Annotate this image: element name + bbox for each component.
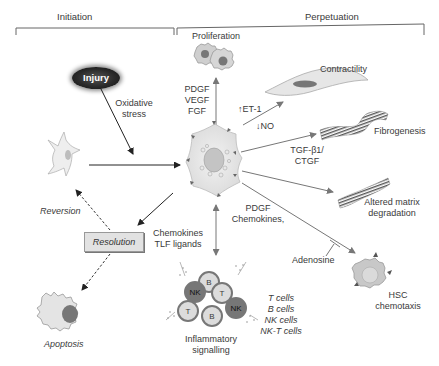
- resolution-box: Resolution: [84, 232, 144, 252]
- no-label: ↓NO: [256, 121, 274, 132]
- reversion-label: Reversion: [40, 206, 81, 217]
- arrow-to-altered-matrix: [242, 171, 333, 192]
- adenosine-label: Adenosine: [292, 255, 335, 266]
- cluster-cell-t-right: T: [216, 288, 228, 299]
- tgf-ctgf-label: TGF-β1/ CTGF: [287, 145, 327, 167]
- cluster-cell-b-bottom: B: [206, 311, 218, 322]
- arrow-hsc-to-resolution: [138, 193, 173, 225]
- cluster-cell-t-bottom: T: [182, 306, 194, 317]
- cluster-cell-b-top: B: [203, 277, 215, 288]
- apoptosis-label: Apoptosis: [44, 339, 84, 350]
- fibrogenesis-label: Fibrogenesis: [374, 126, 426, 137]
- apoptosis-cell-icon: [37, 292, 78, 331]
- chemokines-tlf-label: Chemokines TLF ligands: [150, 228, 206, 250]
- inflammatory-signalling-label: Inflammatory signalling: [181, 334, 241, 356]
- contractility-label: Contractility: [320, 64, 367, 75]
- injury-node: Injury: [72, 67, 120, 89]
- perpetuation-label: Perpetuation: [305, 11, 359, 22]
- altered-matrix-label: Altered matrix degradation: [357, 197, 427, 219]
- activated-hsc-cell-icon: [186, 121, 242, 197]
- initiation-bracket: [16, 28, 174, 35]
- proliferation-cells-icon: [194, 43, 234, 70]
- cluster-cell-nk-left: NK: [187, 287, 203, 298]
- initiation-label: Initiation: [57, 11, 92, 22]
- proliferation-label: Proliferation: [192, 31, 240, 42]
- hsc-chemotaxis-label: HSC chemotaxis: [370, 290, 426, 312]
- cluster-cell-nk-right: NK: [228, 303, 244, 314]
- pdgf-chemokines-label: PDGF Chemokines,: [228, 203, 288, 225]
- immune-cells-list: T cells B cells NK cells NK-T cells: [256, 293, 306, 337]
- arrow-resolution-to-reversion: [76, 190, 110, 230]
- oxidative-stress-label: Oxidative stress: [112, 98, 156, 120]
- arrow-resolution-to-apoptosis: [82, 254, 110, 290]
- hsc-chemotaxis-cell-icon: [352, 252, 392, 288]
- quiescent-hsc-cell-icon: [48, 132, 80, 176]
- growth-factors-label: PDGF VEGF FGF: [183, 84, 211, 117]
- et1-label: ↑ET-1: [238, 104, 262, 115]
